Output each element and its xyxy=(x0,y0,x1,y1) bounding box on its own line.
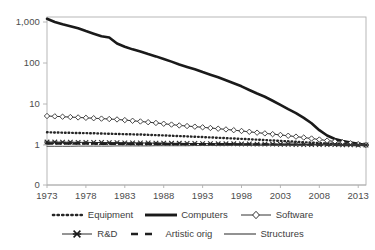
series-marker xyxy=(114,117,119,122)
series-marker xyxy=(192,124,197,129)
series-marker xyxy=(107,116,112,121)
legend-item-structures[interactable]: Structures xyxy=(223,224,314,243)
series-marker xyxy=(278,132,283,137)
legend-label-software: Software xyxy=(273,209,325,220)
dashed-key-icon xyxy=(128,227,162,241)
series-marker xyxy=(145,119,150,124)
legend-row-2: R&D Artistic orig Structures xyxy=(0,224,375,243)
legend-item-equipment[interactable]: Equipment xyxy=(51,205,144,224)
series-marker xyxy=(239,128,244,133)
x-marker-key-icon xyxy=(60,227,94,241)
thin-solid-key-icon xyxy=(223,227,257,241)
series-marker xyxy=(161,121,166,126)
x-axis-tick-label: 1973 xyxy=(25,190,69,201)
series-marker xyxy=(215,126,220,131)
series-marker xyxy=(68,114,73,119)
series-marker xyxy=(309,136,314,141)
x-axis-tick-label: 1988 xyxy=(142,190,186,201)
diamond-marker-key-icon xyxy=(239,208,273,222)
series-marker xyxy=(99,116,104,121)
legend-label-equipment: Equipment xyxy=(85,209,144,220)
series-marker xyxy=(169,122,174,127)
series-marker xyxy=(91,116,96,121)
x-axis-tick-label: 2003 xyxy=(258,190,302,201)
series-marker xyxy=(184,123,189,128)
legend-label-rd: R&D xyxy=(94,228,128,239)
y-axis-tick-label: 10 xyxy=(0,98,40,109)
series-marker xyxy=(247,129,252,134)
series-marker xyxy=(177,123,182,128)
chart-legend: Equipment Computers Software xyxy=(0,205,375,250)
x-axis-tick-label: 1993 xyxy=(181,190,225,201)
series-marker xyxy=(52,114,57,119)
legend-item-software[interactable]: Software xyxy=(239,205,325,224)
legend-item-computers[interactable]: Computers xyxy=(144,205,238,224)
series-marker xyxy=(262,131,267,136)
legend-item-artistic-orig[interactable]: Artistic orig xyxy=(128,224,223,243)
series-marker xyxy=(83,115,88,120)
series-line xyxy=(47,19,366,145)
y-axis-tick-label: 0 xyxy=(0,179,40,190)
legend-item-rd[interactable]: R&D xyxy=(60,224,128,243)
series-marker xyxy=(60,114,65,119)
series-marker xyxy=(44,113,49,118)
x-axis-tick-label: 1983 xyxy=(103,190,147,201)
series-marker xyxy=(301,135,306,140)
series-marker xyxy=(254,130,259,135)
series-marker xyxy=(130,118,135,123)
x-axis-tick-label: 2008 xyxy=(297,190,341,201)
series-marker xyxy=(122,117,127,122)
series-marker xyxy=(223,127,228,132)
x-axis-tick-label: 1998 xyxy=(220,190,264,201)
thick-solid-key-icon xyxy=(144,208,178,222)
legend-label-computers: Computers xyxy=(178,209,238,220)
x-axis-tick-label: 1978 xyxy=(64,190,108,201)
series-marker xyxy=(200,125,205,130)
series-marker xyxy=(153,120,158,125)
series-marker xyxy=(138,119,143,124)
series-marker xyxy=(293,134,298,139)
legend-label-structures: Structures xyxy=(257,228,314,239)
series-marker xyxy=(285,133,290,138)
y-axis-tick-label: 1 xyxy=(0,139,40,150)
y-axis-tick-label: 100 xyxy=(0,57,40,68)
series-marker xyxy=(270,131,275,136)
y-axis-tick-label: 1,000 xyxy=(0,16,40,27)
series-marker xyxy=(208,125,213,130)
series-marker xyxy=(75,115,80,120)
legend-row-1: Equipment Computers Software xyxy=(0,205,375,224)
series-marker xyxy=(317,137,322,142)
dotted-key-icon xyxy=(51,208,85,222)
series-marker xyxy=(231,127,236,132)
x-axis-tick-label: 2013 xyxy=(336,190,375,201)
legend-label-artistic-orig: Artistic orig xyxy=(162,228,223,239)
